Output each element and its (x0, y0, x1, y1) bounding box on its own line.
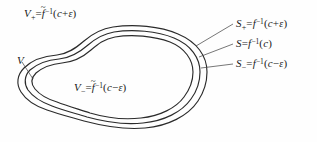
label-s-minus: S−=f−1(c−ε) (236, 58, 287, 72)
label-v-plus: V+=~f−1(c+ε) (24, 8, 76, 22)
leader-line-s (199, 44, 233, 57)
label-v-plus-function: ~f (42, 8, 45, 19)
curve-inner-boundary-s-minus (32, 36, 193, 119)
label-v-plus-symbol: V (24, 7, 31, 19)
label-s-minus-exponent: −1 (256, 57, 264, 66)
tilde-accent-icon: ~ (41, 3, 46, 12)
label-v: V (17, 55, 24, 66)
label-v-minus-close-paren: ) (123, 81, 127, 93)
level-set-diagram: V+=~f−1(c+ε) V V−=~f−1(c−ε) S+=f−1(c+ε) … (0, 0, 317, 142)
curve-outer-boundary-s-plus (18, 26, 207, 129)
label-v-plus-exponent: −1 (45, 7, 53, 16)
label-s: S=f−1(c) (236, 38, 272, 49)
label-v-minus-symbol: V (74, 81, 81, 93)
label-s-plus: S+=f−1(c+ε) (236, 18, 287, 32)
tilde-accent-icon: ~ (91, 77, 96, 86)
label-s-close-paren: ) (268, 37, 272, 49)
label-s-plus-close-paren: ) (283, 17, 287, 29)
curve-middle-boundary-s (25, 31, 200, 124)
label-v-symbol: V (17, 54, 24, 66)
leader-line-s-plus (196, 24, 233, 46)
label-v-minus: V−=~f−1(c−ε) (74, 82, 126, 96)
label-s-plus-exponent: −1 (256, 17, 264, 26)
label-v-minus-exponent: −1 (95, 81, 103, 90)
label-v-plus-close-paren: ) (73, 7, 77, 19)
label-v-minus-function: ~f (92, 82, 95, 93)
label-s-minus-close-paren: ) (283, 57, 287, 69)
